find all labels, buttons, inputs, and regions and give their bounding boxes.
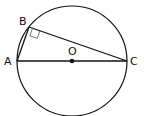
label-o: O xyxy=(68,45,77,58)
center-point xyxy=(70,59,75,64)
label-b: B xyxy=(19,15,27,28)
geometry-diagram: B A C O xyxy=(0,0,144,116)
label-a: A xyxy=(4,55,12,68)
label-c: C xyxy=(130,55,138,68)
segment-bc xyxy=(29,27,127,61)
segment-ab xyxy=(17,27,29,61)
